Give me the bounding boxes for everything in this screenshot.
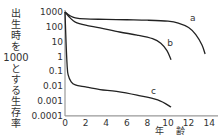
curve-label-b: b bbox=[167, 38, 173, 48]
y-tick-label: 0.1 bbox=[49, 66, 63, 76]
x-tick-label: 8 bbox=[145, 118, 151, 128]
y-tick-label: 0.001 bbox=[37, 96, 63, 106]
x-axis-label-part: 年 bbox=[155, 125, 164, 135]
x-tick-label: 2 bbox=[83, 118, 89, 128]
y-tick-label: 1000 bbox=[40, 7, 63, 17]
x-tick-label: 4 bbox=[103, 118, 109, 128]
curve-a bbox=[65, 12, 205, 54]
y-tick-label: 0.0001 bbox=[32, 111, 64, 121]
curve-label-c: c bbox=[151, 86, 156, 96]
x-axis-label-part: 齢 bbox=[176, 125, 185, 135]
survivorship-chart: 10001001010.10.010.0010.0001 02468101214… bbox=[0, 0, 221, 135]
x-tick-label: 0 bbox=[62, 118, 68, 128]
y-tick-label: 100 bbox=[46, 22, 63, 32]
y-tick-label: 0.01 bbox=[43, 81, 63, 91]
curve-label-a: a bbox=[190, 13, 196, 23]
y-tick-label: 1 bbox=[57, 52, 63, 62]
x-tick-label: 14 bbox=[203, 118, 215, 128]
y-tick-label: 10 bbox=[52, 37, 64, 47]
x-tick-label: 6 bbox=[124, 118, 130, 128]
